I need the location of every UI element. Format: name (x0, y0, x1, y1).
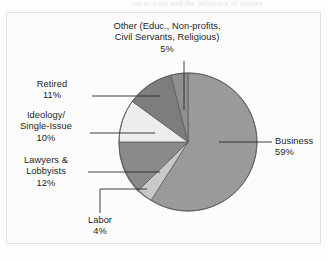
label-retired-percent: 11% (18, 90, 86, 101)
label-lawyers-line-2: Lobbyists (26, 166, 66, 176)
label-retired-text: Retired (37, 79, 67, 89)
label-labor: Labor 4% (70, 215, 130, 238)
label-business-text: Business (275, 136, 313, 146)
label-other: Other (Educ., Non-profits, Civil Servant… (93, 21, 241, 55)
label-labor-percent: 4% (70, 226, 130, 237)
label-lawyers-line-1: Lawyers & (24, 155, 68, 165)
label-ideology-single-issue: Ideology/ Single-Issue 10% (6, 110, 86, 144)
label-lawyers-lobbyists: Lawyers & Lobbyists 12% (8, 155, 84, 189)
label-ideology-line-2: Single-Issue (20, 121, 72, 131)
label-ideology-percent: 10% (6, 133, 86, 144)
label-other-line-1: Other (Educ., Non-profits, (113, 21, 220, 31)
label-business: Business 59% (275, 136, 327, 159)
label-labor-text: Labor (88, 215, 112, 225)
label-lawyers-percent: 12% (8, 178, 84, 189)
pie-chart-figure: on as trust and the influence of money (0, 0, 328, 260)
label-business-percent: 59% (275, 147, 327, 158)
label-other-percent: 5% (93, 44, 241, 55)
label-other-line-2: Civil Servants, Religious) (115, 32, 220, 42)
label-retired: Retired 11% (18, 79, 86, 102)
label-ideology-line-1: Ideology/ (27, 110, 65, 120)
